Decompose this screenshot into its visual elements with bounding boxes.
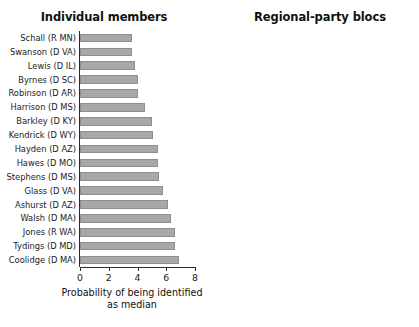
bar	[80, 61, 135, 70]
bar	[80, 75, 138, 84]
bar-row: Harrison (D MS)	[80, 100, 195, 114]
category-label: Schall (R MN)	[20, 34, 76, 42]
bar-row: Lewis (D IL)	[80, 59, 195, 73]
bar	[80, 89, 138, 98]
category-label: Walsh (D MA)	[20, 214, 76, 222]
x-axis-tick-label: 4	[135, 272, 141, 283]
bar-row: Walsh (D MA)	[80, 211, 195, 225]
bar-row: Kendrick (D WY)	[80, 128, 195, 142]
bar-row: Barkley (D KY)	[80, 114, 195, 128]
bar	[80, 172, 159, 181]
x-axis-tick-label: 8	[192, 272, 198, 283]
category-label: Hawes (D MO)	[17, 159, 76, 167]
bar-row: Hawes (D MO)	[80, 156, 195, 170]
bar	[80, 228, 175, 237]
figure-two-panel-bar-charts: Individual members 02468 Schall (R MN)Sw…	[0, 0, 419, 327]
bar-row: Stephens (D MS)	[80, 170, 195, 184]
x-axis-tick	[138, 267, 139, 271]
x-axis-tick	[166, 267, 167, 271]
bar-row: Byrnes (D SC)	[80, 73, 195, 87]
category-label: Robinson (D AR)	[8, 89, 76, 97]
x-axis-tick-label: 0	[77, 272, 83, 283]
bar	[80, 117, 152, 126]
bar-row: Tydings (D MD)	[80, 239, 195, 253]
bar	[80, 214, 171, 223]
bar-row: Glass (D VA)	[80, 184, 195, 198]
category-label: Ashurst (D AZ)	[15, 200, 76, 208]
bar-row: Swanson (D VA)	[80, 45, 195, 59]
x-axis-tick-label: 6	[163, 272, 169, 283]
x-axis-tick	[80, 267, 81, 271]
x-axis-tick	[109, 267, 110, 271]
category-label: Hayden (D AZ)	[15, 145, 76, 153]
category-label: Glass (D VA)	[25, 186, 76, 194]
bar-row: Schall (R MN)	[80, 31, 195, 45]
bar	[80, 159, 158, 168]
bar	[80, 48, 132, 57]
bar	[80, 256, 179, 265]
bar	[80, 131, 153, 140]
bar	[80, 242, 175, 251]
bar-row: Hayden (D AZ)	[80, 142, 195, 156]
plot-area-individual-members: 02468 Schall (R MN)Swanson (D VA)Lewis (…	[79, 31, 195, 267]
category-label: Swanson (D VA)	[10, 48, 76, 56]
panel-regional-party-blocs: Regional-party blocs 010203040506070 Dem…	[205, 0, 419, 327]
x-axis-title-left: Probability of being identified as media…	[57, 287, 207, 311]
category-label: Byrnes (D SC)	[18, 75, 76, 83]
bar-row: Coolidge (D MA)	[80, 253, 195, 267]
bar	[80, 34, 132, 43]
category-label: Kendrick (D WY)	[9, 131, 76, 139]
panel-individual-members: Individual members 02468 Schall (R MN)Sw…	[0, 0, 205, 327]
bar	[80, 200, 168, 209]
x-axis-tick-label: 2	[106, 272, 112, 283]
category-label: Lewis (D IL)	[28, 62, 76, 70]
bar	[80, 103, 145, 112]
bar	[80, 145, 158, 154]
category-label: Barkley (D KY)	[16, 117, 76, 125]
panel-title-regional-party-blocs: Regional-party blocs	[225, 10, 415, 24]
bar-row: Jones (R WA)	[80, 225, 195, 239]
category-label: Stephens (D MS)	[7, 173, 76, 181]
category-label: Jones (R WA)	[23, 228, 76, 236]
x-axis-line-left: 02468	[80, 267, 195, 268]
bar	[80, 186, 163, 195]
panel-title-individual-members: Individual members	[14, 10, 194, 24]
bar-row: Ashurst (D AZ)	[80, 198, 195, 212]
x-axis-tick	[195, 267, 196, 271]
category-label: Harrison (D MS)	[10, 103, 76, 111]
category-label: Tydings (D MD)	[13, 242, 76, 250]
category-label: Coolidge (D MA)	[9, 256, 76, 264]
bar-row: Robinson (D AR)	[80, 87, 195, 101]
